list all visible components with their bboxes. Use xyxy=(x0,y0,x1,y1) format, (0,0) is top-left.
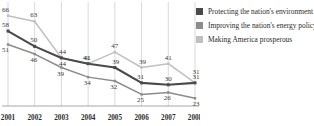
legend-item[interactable]: Making America prosperous xyxy=(196,36,314,43)
data-value-label: 41 xyxy=(84,54,92,62)
data-value-label: 41 xyxy=(165,54,173,62)
legend-label: Making America prosperous xyxy=(208,36,292,43)
data-point-marker xyxy=(194,97,196,99)
data-point-marker xyxy=(34,53,36,55)
data-point-marker xyxy=(114,51,116,53)
x-tick-label: 2007 xyxy=(161,114,176,122)
data-point-marker xyxy=(7,14,9,16)
x-tick-label: 2002 xyxy=(28,114,43,122)
data-value-label: 51 xyxy=(2,46,10,54)
x-tick-label: 2004 xyxy=(81,114,96,122)
data-value-label: 31 xyxy=(193,68,201,76)
data-point-marker xyxy=(7,30,10,33)
series-line xyxy=(8,16,195,83)
data-value-label: 44 xyxy=(59,48,67,56)
data-value-label: 47 xyxy=(111,42,119,50)
x-tick-label: 2006 xyxy=(134,114,149,122)
data-value-label: 39 xyxy=(112,58,120,66)
data-value-label: 25 xyxy=(137,96,145,104)
legend-swatch-icon xyxy=(196,8,203,15)
plot-area: 5850444139313031514639343225262366634441… xyxy=(0,0,200,126)
data-point-marker xyxy=(113,66,116,69)
data-value-label: 39 xyxy=(139,58,147,66)
data-point-marker xyxy=(167,62,169,64)
line-chart-svg: 5850444139313031514639343225262366634441… xyxy=(0,0,200,126)
legend-label: Improving the nation's energy policy xyxy=(208,22,314,29)
data-value-label: 44 xyxy=(59,60,67,68)
data-value-label: 58 xyxy=(2,21,10,29)
chart-figure: 5850444139313031514639343225262366634441… xyxy=(0,0,314,126)
chart-legend: Protecting the nation's environmentImpro… xyxy=(196,8,314,50)
data-point-marker xyxy=(7,43,9,45)
data-point-marker xyxy=(140,93,142,95)
data-point-marker xyxy=(87,76,89,78)
data-value-label: 50 xyxy=(30,36,38,44)
x-tick-label: 2001 xyxy=(1,114,16,122)
x-tick-label: 2003 xyxy=(54,114,69,122)
legend-item[interactable]: Protecting the nation's environment xyxy=(196,8,314,15)
data-value-label: 63 xyxy=(30,11,38,19)
x-tick-label: 2008 xyxy=(188,114,200,122)
data-value-label: 23 xyxy=(193,100,201,108)
data-value-label: 46 xyxy=(30,56,38,64)
data-value-label: 26 xyxy=(164,94,172,102)
data-point-marker xyxy=(140,81,143,84)
data-point-marker xyxy=(194,81,197,84)
legend-swatch-icon xyxy=(196,22,203,29)
x-tick-label: 2005 xyxy=(108,114,123,122)
x-tick-labels: 20012002200320042005200620072008 xyxy=(1,114,200,122)
data-point-marker xyxy=(114,80,116,82)
data-point-marker xyxy=(140,66,142,68)
data-value-label: 31 xyxy=(137,73,145,81)
data-point-marker xyxy=(87,62,90,65)
data-point-marker xyxy=(167,83,170,86)
data-point-marker xyxy=(167,91,169,93)
legend-label: Protecting the nation's environment xyxy=(208,8,313,15)
data-value-label: 66 xyxy=(2,6,10,14)
data-point-marker xyxy=(33,45,36,48)
data-point-marker xyxy=(34,20,36,22)
data-value-label: 32 xyxy=(110,83,118,91)
legend-swatch-icon xyxy=(196,36,203,43)
legend-item[interactable]: Improving the nation's energy policy xyxy=(196,22,314,29)
series-line xyxy=(8,44,195,98)
data-value-label: 39 xyxy=(57,70,65,78)
data-value-label: 30 xyxy=(165,75,173,83)
data-value-label: 34 xyxy=(84,79,92,87)
